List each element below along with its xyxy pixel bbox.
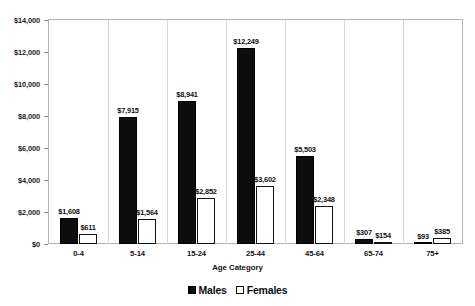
y-axis-tick-mark [44, 244, 48, 245]
bar-value-label: $2,852 [195, 187, 216, 196]
chart-legend: Males Females [0, 284, 475, 296]
bar-chart: $0$2,000$4,000$6,000$8,000$10,000$12,000… [0, 0, 475, 306]
bar-group [167, 20, 226, 244]
y-axis: $0$2,000$4,000$6,000$8,000$10,000$12,000… [0, 0, 46, 306]
x-axis-category-label: 15-24 [187, 249, 206, 258]
y-axis-tick-label: $4,000 [18, 176, 40, 185]
bar-value-label: $3,602 [254, 175, 275, 184]
chart-title-cropped [0, 0, 475, 6]
bar-males[interactable] [178, 101, 196, 244]
bar-females[interactable] [256, 186, 274, 244]
legend-item-males[interactable]: Males [188, 284, 227, 296]
bar-females[interactable] [433, 238, 451, 244]
x-axis-title: Age Category [0, 263, 475, 272]
bar-value-label: $1,564 [136, 208, 157, 217]
y-axis-tick-mark [44, 84, 48, 85]
bar-value-label: $154 [375, 231, 391, 240]
y-axis-tick-mark [44, 116, 48, 117]
legend-label-males: Males [199, 284, 227, 296]
y-axis-tick-mark [44, 20, 48, 21]
y-axis-tick-mark [44, 180, 48, 181]
bar-value-label: $611 [80, 223, 95, 232]
bar-females[interactable] [315, 206, 333, 244]
bar-value-label: $93 [417, 232, 429, 241]
y-axis-tick-label: $10,000 [14, 80, 40, 89]
y-axis-tick-label: $0 [32, 240, 40, 249]
bar-value-label: $2,348 [313, 195, 334, 204]
bar-value-label: $5,503 [294, 145, 315, 154]
bar-group [285, 20, 344, 244]
outlined-square-icon [236, 286, 244, 294]
bar-value-label: $12,249 [233, 37, 258, 46]
x-axis-category-label: 65-74 [364, 249, 383, 258]
y-axis-tick-mark [44, 212, 48, 213]
bar-group [344, 20, 403, 244]
legend-item-females[interactable]: Females [236, 284, 288, 296]
bar-males[interactable] [119, 117, 137, 244]
bar-value-label: $307 [356, 228, 372, 237]
bar-value-label: $1,608 [58, 207, 79, 216]
y-axis-tick-mark [44, 148, 48, 149]
x-axis-category-label: 45-64 [305, 249, 324, 258]
bar-value-label: $7,915 [117, 106, 138, 115]
x-axis-category-label: 25-44 [246, 249, 265, 258]
bar-males[interactable] [296, 156, 314, 244]
plot-area [49, 20, 462, 244]
y-axis-tick-label: $12,000 [14, 48, 40, 57]
bar-males[interactable] [414, 242, 432, 244]
x-axis-category-label: 0-4 [73, 249, 84, 258]
bar-group [403, 20, 462, 244]
y-axis-tick-label: $8,000 [18, 112, 40, 121]
bar-value-label: $385 [434, 227, 450, 236]
bar-females[interactable] [197, 198, 215, 244]
x-axis-category-label: 75+ [426, 249, 439, 258]
bar-males[interactable] [355, 239, 373, 244]
y-axis-tick-label: $6,000 [18, 144, 40, 153]
bar-males[interactable] [237, 48, 255, 244]
bar-males[interactable] [60, 218, 78, 244]
bar-females[interactable] [79, 234, 97, 244]
legend-label-females: Females [247, 284, 288, 296]
y-axis-tick-mark [44, 52, 48, 53]
y-axis-tick-label: $14,000 [14, 16, 40, 25]
bar-group [226, 20, 285, 244]
bar-females[interactable] [138, 219, 156, 244]
bar-females[interactable] [374, 242, 392, 244]
bar-value-label: $8,941 [176, 90, 197, 99]
x-axis-category-label: 5-14 [130, 249, 145, 258]
filled-square-icon [188, 286, 196, 294]
y-axis-tick-label: $2,000 [18, 208, 40, 217]
